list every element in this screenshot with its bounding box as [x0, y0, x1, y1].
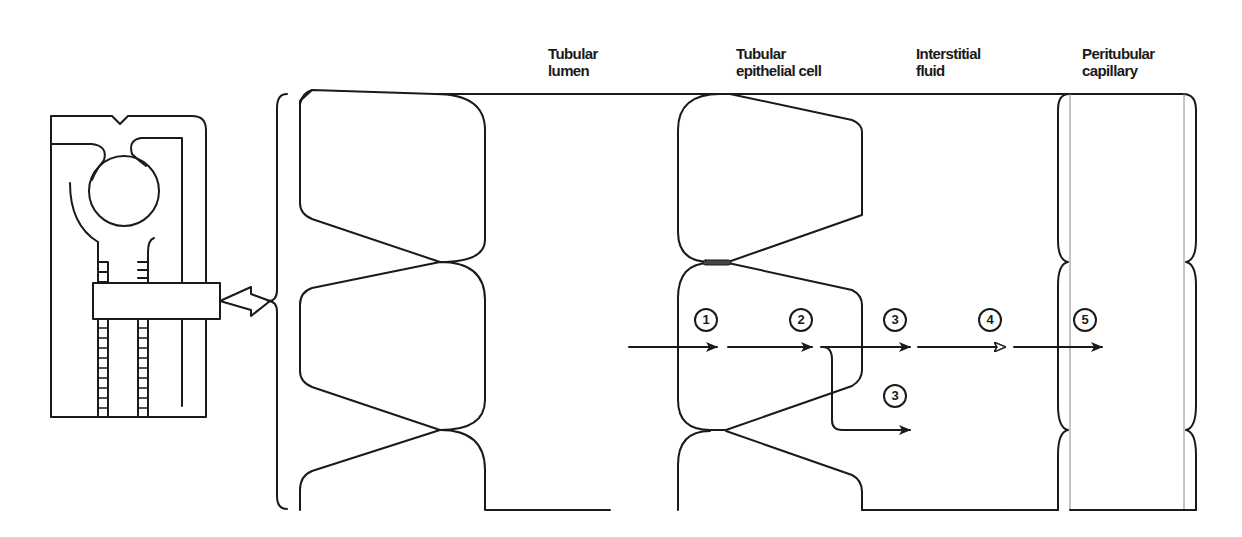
step-marker-3-transcellular: 3: [883, 308, 907, 332]
bracket: [268, 94, 287, 509]
magnify-arrow-icon: [220, 287, 270, 316]
reabsorption-flow: [629, 347, 1102, 430]
step-marker-1: 1: [694, 308, 718, 332]
nephron-inset: [51, 116, 220, 417]
left-epithelium: [300, 90, 610, 510]
label-peritubular-capillary: Peritubular capillary: [1082, 45, 1155, 79]
label-tubular-epithelial-cell: Tubular epithelial cell: [736, 45, 821, 79]
step-marker-2: 2: [789, 308, 813, 332]
tight-junction: [703, 260, 731, 265]
step-marker-5: 5: [1073, 308, 1097, 332]
label-tubular-lumen: Tubular lumen: [548, 45, 598, 79]
step-marker-3-paracellular: 3: [883, 384, 907, 408]
reabsorption-diagram: [0, 0, 1242, 537]
peritubular-capillary-wall: [1003, 94, 1196, 510]
step-marker-4: 4: [978, 308, 1002, 332]
label-interstitial-fluid: Interstitial fluid: [916, 45, 980, 79]
tubular-epithelial-cells: [678, 94, 1003, 510]
